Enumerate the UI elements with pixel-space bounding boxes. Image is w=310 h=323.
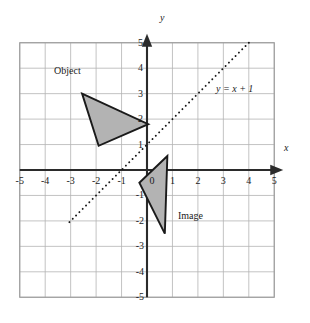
x-tick-label-neg2: -2	[92, 176, 100, 186]
y-tick-label-neg2: -2	[136, 216, 144, 226]
y-tick-label-neg4: -4	[136, 267, 144, 277]
y-tick-label-2: 2	[138, 114, 143, 124]
y-tick-label-1: 1	[138, 140, 143, 150]
y-tick-label-5: 5	[138, 38, 143, 48]
coordinate-plane-svg	[0, 0, 310, 323]
line-equation-label: y = x + 1	[216, 84, 253, 94]
y-tick-label-4: 4	[138, 63, 143, 73]
x-tick-label-3: 3	[221, 176, 226, 186]
y-tick-label-neg3: -3	[136, 241, 144, 251]
x-tick-label-neg1: -1	[117, 176, 125, 186]
x-tick-label-0: 0	[150, 176, 155, 186]
x-tick-label-neg3: -3	[66, 176, 74, 186]
y-axis-label: y	[160, 13, 164, 23]
x-tick-label-2: 2	[195, 176, 200, 186]
image-annotation-label: Image	[178, 211, 203, 221]
x-tick-label-neg4: -4	[41, 176, 49, 186]
x-tick-label-1: 1	[170, 176, 175, 186]
x-tick-label-neg5: -5	[16, 176, 24, 186]
y-tick-label-3: 3	[138, 89, 143, 99]
reflection-figure: g -5-4-3-2-101234554321-1-2-3-4-5 x y Ob…	[0, 0, 310, 323]
x-tick-label-4: 4	[246, 176, 251, 186]
plot-background	[0, 0, 310, 323]
y-tick-label-neg1: -1	[136, 190, 144, 200]
object-annotation-label: Object	[54, 66, 81, 76]
y-tick-label-neg5: -5	[136, 292, 144, 302]
x-axis-label: x	[284, 143, 288, 153]
x-tick-label-5: 5	[272, 176, 277, 186]
